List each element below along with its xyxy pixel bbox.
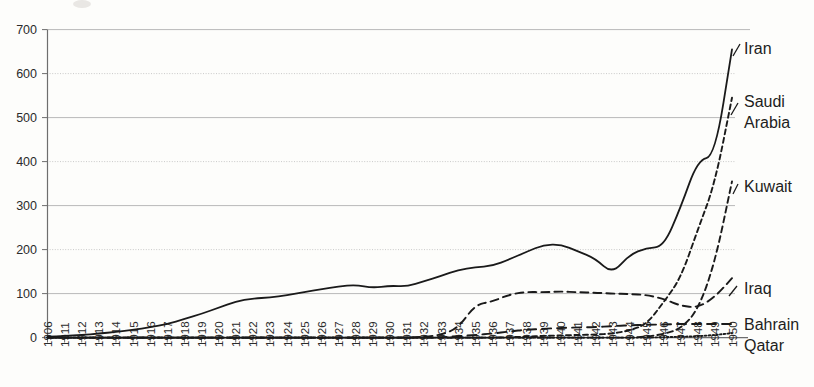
y-tick-700: 700 [16,23,37,37]
series-label-iran: Iran [744,40,772,57]
x-tick-1934: 1934 [453,321,465,347]
series-label-leaders [729,44,740,296]
x-tick-1940: 1940 [555,321,567,347]
y-tick-200: 200 [16,243,37,257]
leader-kuwait [733,184,738,194]
gridlines [47,30,750,294]
x-tick-1948: 1948 [692,321,704,347]
series-label-saudi-2: Arabia [744,114,790,131]
series-line-saudi-arabia [48,98,733,338]
y-tick-0: 0 [30,331,37,345]
x-tick-1916: 1916 [145,321,157,347]
x-tick-1915: 1915 [128,321,140,347]
series-label-kuwait: Kuwait [744,178,793,195]
x-tick-1919: 1919 [196,321,208,347]
series-label-qatar: Qatar [744,337,785,354]
y-tickmarks [42,30,47,338]
y-tick-400: 400 [16,155,37,169]
x-tick-1918: 1918 [179,321,191,347]
x-tick-1932: 1932 [418,321,430,347]
x-tick-1922: 1922 [247,321,259,347]
x-tick-1921: 1921 [230,321,242,347]
x-tick-1947: 1947 [675,321,687,347]
leader-iran [733,44,740,56]
series-labels-group: Iran Saudi Arabia Kuwait Iraq Bahrain Qa… [744,40,799,354]
x-tick-1938: 1938 [521,321,533,347]
y-tick-500: 500 [16,111,37,125]
x-tick-1911: 1911 [59,322,71,347]
y-tick-300: 300 [16,199,37,213]
series-line-kuwait [48,181,733,337]
data-series-group [48,49,733,337]
line-chart-figure: 0100200300400500600700 19061911191219131… [0,0,814,387]
x-tick-1920: 1920 [213,321,225,347]
x-tick-1930: 1930 [384,321,396,347]
leader-saudi [731,103,738,115]
leader-iraq [729,286,737,296]
series-label-iraq: Iraq [744,280,772,297]
x-tick-1937: 1937 [504,321,516,347]
y-tick-600: 600 [16,67,37,81]
series-label-saudi-1: Saudi [744,93,785,110]
x-tick-1929: 1929 [367,321,379,347]
x-tick-1923: 1923 [264,321,276,347]
x-tick-1926: 1926 [316,321,328,347]
y-axis-tick-labels: 0100200300400500600700 [16,23,37,345]
x-tick-1906: 1906 [42,321,54,347]
x-tick-1928: 1928 [350,321,362,347]
scan-artifact [73,0,91,8]
x-tick-1925: 1925 [299,321,311,347]
x-tick-1927: 1927 [333,321,345,347]
series-label-bahrain: Bahrain [744,316,799,333]
y-tick-100: 100 [16,287,37,301]
x-tick-1931: 1931 [401,321,413,347]
x-tick-1939: 1939 [538,321,550,347]
axes [47,30,748,338]
x-tick-1914: 1914 [110,321,122,347]
x-tick-1924: 1924 [282,321,294,347]
